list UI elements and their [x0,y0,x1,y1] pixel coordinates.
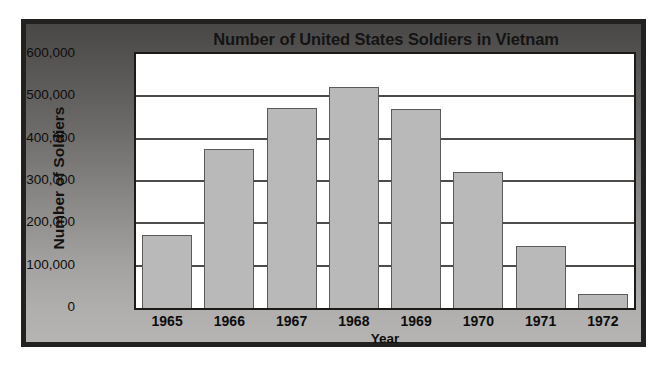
x-tick-label: 1967 [261,313,323,329]
x-tick-label: 1965 [136,313,198,329]
chart-title: Number of United States Soldiers in Viet… [136,26,636,52]
y-tick-label: 0 [0,299,75,314]
chart-figure: Number of United States Soldiers in Viet… [21,19,646,347]
x-tick-label: 1968 [323,313,385,329]
bar [453,172,503,308]
x-tick-label: 1966 [198,313,260,329]
bar [204,149,254,308]
y-tick-label: 400,000 [0,130,75,145]
y-tick-label: 500,000 [0,87,75,102]
gridline [136,95,634,97]
bar [578,294,628,308]
bar [516,246,566,308]
y-tick-label: 300,000 [0,172,75,187]
gridline [136,138,634,140]
bar [267,108,317,308]
plot-area [134,52,636,310]
x-tick-label: 1970 [447,313,509,329]
y-tick-label: 100,000 [0,257,75,272]
y-tick-label: 600,000 [0,45,75,60]
bar [391,109,441,308]
y-tick-label: 200,000 [0,214,75,229]
x-tick-label: 1972 [572,313,634,329]
x-tick-label: 1971 [510,313,572,329]
bar [142,235,192,308]
x-axis-title: Year [134,331,636,346]
x-tick-label: 1969 [385,313,447,329]
bar [329,87,379,308]
